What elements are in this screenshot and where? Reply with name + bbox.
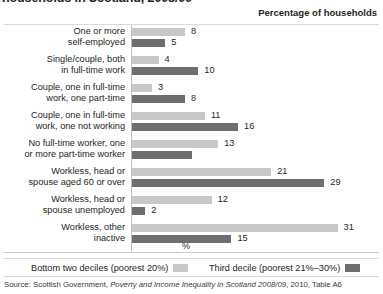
legend-item: Bottom two deciles (poorest 20%) — [31, 261, 188, 274]
category-label-line: One or more — [3, 26, 125, 37]
legend-label: Third decile (poorest 21%–30%) — [209, 263, 340, 273]
bar-row: or more part-time worker — [0, 150, 383, 161]
source-note: Source: Scottish Government, Poverty and… — [4, 280, 342, 289]
category-label: work, one part-time — [3, 93, 125, 104]
bar — [132, 179, 324, 187]
category-label: No full-time worker, one — [3, 138, 125, 149]
source-prefix: Source: Scottish Government, — [4, 280, 110, 289]
category-label: self-employed — [3, 37, 125, 48]
bar — [132, 207, 145, 215]
category-label: work, one not working — [3, 121, 125, 132]
bar-row: spouse unemployed2 — [0, 206, 383, 217]
bar-row: spouse aged 60 or over29 — [0, 178, 383, 189]
legend-label: Bottom two deciles (poorest 20%) — [31, 263, 168, 273]
bar-row: work, one part-time8 — [0, 94, 383, 105]
chart-title: households in Scotland, 2008/09 — [2, 0, 192, 5]
bar — [132, 84, 152, 92]
bar-row: work, one not working16 — [0, 122, 383, 133]
bar-value-label: 3 — [158, 82, 163, 93]
source-publication: Poverty and Income Inequality in Scotlan… — [110, 280, 286, 289]
bar — [132, 56, 159, 64]
category-label: or more part-time worker — [3, 149, 125, 160]
category-label: Single/couple, both — [3, 54, 125, 65]
source-suffix: , 2010, Table A6 — [286, 280, 342, 289]
bar — [132, 28, 185, 36]
bar — [132, 151, 192, 159]
bar-value-label: 8 — [191, 26, 196, 37]
category-label-line: Workless, head or — [3, 194, 125, 205]
category-label-line: Couple, one in full-time — [3, 110, 125, 121]
column-header: Percentage of households — [258, 7, 377, 18]
bar-value-label: 31 — [344, 222, 354, 233]
bar-chart-plot: One or more8self-employed5Single/couple,… — [0, 25, 383, 252]
bar — [132, 224, 338, 232]
category-label-line: Workless, head or — [3, 166, 125, 177]
legend-swatch — [345, 264, 360, 272]
bar-row: inactive15 — [0, 234, 383, 245]
category-label-line: Couple, one in full-time — [3, 82, 125, 93]
category-label-line: spouse unemployed — [3, 205, 125, 216]
axis-baseline-rule — [4, 252, 379, 253]
category-label: One or more — [3, 26, 125, 37]
bar-value-label: 12 — [218, 194, 228, 205]
bar — [132, 67, 198, 75]
category-label-line: work, one part-time — [3, 93, 125, 104]
category-label: spouse aged 60 or over — [3, 177, 125, 188]
bar-value-label: 4 — [165, 54, 170, 65]
chart-title-clipped: households in Scotland, 2008/09 — [0, 0, 383, 7]
bar-value-label: 13 — [224, 138, 234, 149]
category-label-line: or more part-time worker — [3, 149, 125, 160]
bar-value-label: 5 — [171, 37, 176, 48]
bar-value-label: 11 — [211, 110, 221, 121]
legend-divider-top — [4, 258, 379, 259]
bar-value-label: 29 — [330, 177, 340, 188]
chart-legend: Bottom two deciles (poorest 20%)Third de… — [0, 261, 383, 275]
axis-unit-label: % — [182, 241, 190, 251]
category-label: spouse unemployed — [3, 205, 125, 216]
category-label-line: Single/couple, both — [3, 54, 125, 65]
legend-swatch — [173, 264, 188, 272]
bar-value-label: 16 — [244, 121, 254, 132]
category-label: Workless, head or — [3, 166, 125, 177]
bar-value-label: 15 — [237, 233, 247, 244]
category-label: Couple, one in full-time — [3, 82, 125, 93]
category-label: Workless, other — [3, 222, 125, 233]
category-label: in full-time work — [3, 65, 125, 76]
category-label-line: spouse aged 60 or over — [3, 177, 125, 188]
bar-value-label: 21 — [277, 166, 287, 177]
bar — [132, 95, 185, 103]
legend-item: Third decile (poorest 21%–30%) — [209, 261, 360, 274]
category-label-line: self-employed — [3, 37, 125, 48]
legend-divider-bottom — [4, 276, 379, 277]
category-label-line: Workless, other — [3, 222, 125, 233]
bar — [132, 140, 218, 148]
bar — [132, 168, 271, 176]
category-label-line: inactive — [3, 233, 125, 244]
category-label: Workless, head or — [3, 194, 125, 205]
bar-value-label: 2 — [151, 205, 156, 216]
bar-row: self-employed5 — [0, 38, 383, 49]
category-label-line: in full-time work — [3, 65, 125, 76]
bar — [132, 39, 165, 47]
category-label-line: work, one not working — [3, 121, 125, 132]
bar — [132, 123, 238, 131]
bar-value-label: 10 — [204, 65, 214, 76]
category-label: Couple, one in full-time — [3, 110, 125, 121]
bar — [132, 196, 212, 204]
bar-row: in full-time work10 — [0, 66, 383, 77]
category-label-line: No full-time worker, one — [3, 138, 125, 149]
bar — [132, 112, 205, 120]
bar-value-label: 8 — [191, 93, 196, 104]
category-label: inactive — [3, 233, 125, 244]
